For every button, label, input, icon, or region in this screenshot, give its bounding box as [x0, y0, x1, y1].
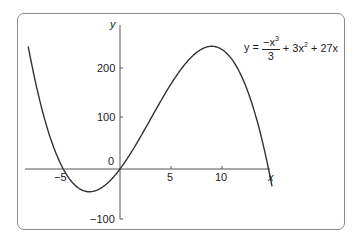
- y-tick-label: 100: [97, 111, 115, 123]
- y-tick-label: −100: [90, 213, 115, 225]
- x-axis-label: x: [267, 171, 274, 183]
- equation-exponent: 2: [304, 41, 308, 48]
- equation-term: + 3x: [283, 42, 304, 54]
- x-tick-label: −5: [54, 171, 67, 183]
- equation-numerator: −x: [263, 36, 275, 48]
- equation-denominator: 3: [268, 50, 274, 63]
- equation-annotation: y = −x3 3 + 3x2 + 27x: [244, 32, 338, 63]
- equation-term: + 27x: [311, 42, 338, 54]
- equation-lhs: y =: [244, 41, 259, 53]
- equation-exponent: 3: [275, 35, 279, 42]
- origin-label: 0: [108, 155, 114, 167]
- curve-line: [28, 46, 272, 191]
- y-tick-label: 200: [97, 62, 115, 74]
- x-tick-label: 5: [167, 171, 173, 183]
- y-axis-label: y: [109, 18, 117, 30]
- x-tick-label: 10: [215, 171, 227, 183]
- equation-fraction: −x3 3: [262, 32, 280, 63]
